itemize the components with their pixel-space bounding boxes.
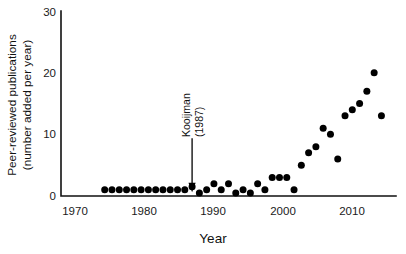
x-tick-label-2010: 2010	[339, 205, 365, 217]
x-tick-label-1970: 1970	[62, 205, 88, 217]
data-point	[371, 69, 378, 76]
annotation-kooijman-1987: Kooijman (1987)	[180, 93, 205, 192]
data-point	[196, 189, 203, 196]
chart-svg: Peer-reviewed publications (number added…	[0, 0, 406, 254]
data-point	[327, 131, 334, 138]
y-tick-label-30: 30	[43, 6, 56, 18]
data-point	[320, 125, 327, 132]
data-point	[108, 186, 115, 193]
data-point	[181, 186, 188, 193]
data-point	[225, 180, 232, 187]
y-tick-label-0: 0	[50, 190, 56, 202]
y-axis-title: Peer-reviewed publications (number added…	[5, 34, 34, 176]
data-point	[312, 143, 319, 150]
data-point	[334, 156, 341, 163]
y-axis-title-line1: Peer-reviewed publications	[5, 34, 19, 176]
y-axis-tick-labels: 30 20 10 0	[43, 6, 56, 202]
data-point	[174, 186, 181, 193]
data-point	[116, 186, 123, 193]
data-point	[145, 186, 152, 193]
x-tick-label-2000: 2000	[270, 205, 296, 217]
data-point	[240, 186, 247, 193]
data-point-series	[101, 69, 385, 196]
data-point	[138, 186, 145, 193]
data-point	[298, 162, 305, 169]
data-point	[130, 186, 137, 193]
data-point	[123, 186, 130, 193]
data-point	[363, 88, 370, 95]
annotation-label-line2: (1987)	[193, 107, 205, 137]
axis-lines	[61, 11, 396, 196]
data-point	[349, 106, 356, 113]
data-point	[356, 100, 363, 107]
y-axis-title-line2: (number added per year)	[20, 40, 34, 171]
data-point	[378, 112, 385, 119]
data-point	[261, 186, 268, 193]
data-point	[210, 180, 217, 187]
data-point	[167, 186, 174, 193]
x-axis-tick-labels: 1970 1980 1990 2000 2010	[62, 205, 365, 217]
publications-per-year-scatter-chart: Peer-reviewed publications (number added…	[0, 0, 406, 254]
data-point	[254, 180, 261, 187]
x-tick-label-1980: 1980	[131, 205, 157, 217]
data-point	[159, 186, 166, 193]
x-tick-label-1990: 1990	[200, 205, 226, 217]
data-point	[152, 186, 159, 193]
data-point	[203, 186, 210, 193]
data-point	[283, 174, 290, 181]
data-point	[342, 112, 349, 119]
data-point	[305, 149, 312, 156]
data-point	[291, 186, 298, 193]
data-point	[232, 189, 239, 196]
data-point	[101, 186, 108, 193]
data-point	[276, 174, 283, 181]
x-axis-title: Year	[199, 231, 227, 246]
y-tick-label-10: 10	[43, 128, 56, 140]
data-point	[218, 186, 225, 193]
data-point	[247, 189, 254, 196]
y-tick-label-20: 20	[43, 67, 56, 79]
annotation-label-line1: Kooijman	[180, 93, 192, 137]
data-point	[269, 174, 276, 181]
